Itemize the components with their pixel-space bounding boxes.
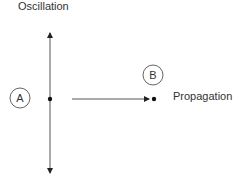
point-a-dot: [48, 97, 52, 101]
point-b-dot: [152, 97, 156, 101]
point-a-badge: A: [10, 88, 30, 108]
point-a-label: A: [16, 92, 24, 104]
point-b-badge: B: [143, 65, 163, 85]
point-b-label: B: [149, 69, 156, 81]
wave-diagram: A B: [0, 0, 245, 175]
